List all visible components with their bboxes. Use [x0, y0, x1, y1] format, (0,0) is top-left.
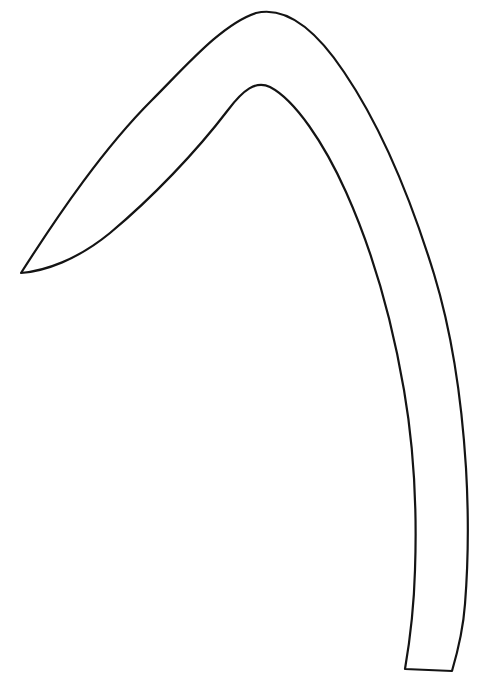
figure-canvas: Curved Horn Outline Drawing A single clo…: [0, 0, 487, 688]
